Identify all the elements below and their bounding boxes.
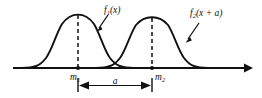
density-curves-diagram: f1(x) f2(x + a) m1 m2 a <box>0 0 262 98</box>
curve-label-f2-argument: (x + a) <box>196 8 222 19</box>
figure-container: f1(x) f2(x + a) m1 m2 a <box>0 0 262 98</box>
axis-marker-m2 <box>150 66 154 70</box>
axis-marker-m1 <box>76 66 80 70</box>
curve-label-f1: f1(x) <box>104 5 120 16</box>
separation-label: a <box>113 76 118 86</box>
figure-background <box>0 0 262 98</box>
curve-label-f1-argument: (x) <box>110 5 121 16</box>
